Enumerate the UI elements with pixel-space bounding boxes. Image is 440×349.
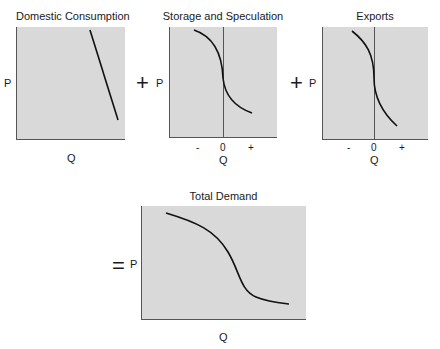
y-axis-label: P bbox=[4, 77, 11, 89]
tick-negative: - bbox=[347, 142, 350, 153]
y-axis-label: P bbox=[309, 77, 316, 89]
y-axis-label: P bbox=[130, 258, 137, 270]
x-axis-label: Q bbox=[219, 331, 228, 343]
panel-total-demand bbox=[141, 206, 306, 320]
panel-title: Total Demand bbox=[141, 190, 306, 202]
panel-domestic-consumption bbox=[16, 27, 125, 140]
tick-negative: - bbox=[196, 142, 199, 153]
x-axis-label: Q bbox=[67, 152, 76, 164]
panel-storage-speculation bbox=[169, 27, 277, 138]
tick-positive: + bbox=[399, 142, 405, 153]
x-axis-label: Q bbox=[370, 154, 379, 166]
panel-exports bbox=[322, 27, 428, 140]
y-axis-label: P bbox=[156, 77, 163, 89]
x-axis-label: Q bbox=[219, 154, 228, 166]
tick-zero: 0 bbox=[220, 142, 226, 153]
panel-title: Storage and Speculation bbox=[162, 10, 284, 22]
plus-operator: + bbox=[136, 72, 149, 94]
plus-operator: + bbox=[290, 72, 303, 94]
equals-operator: = bbox=[112, 255, 125, 277]
panel-background bbox=[141, 206, 306, 319]
panel-title: Exports bbox=[322, 10, 428, 22]
tick-zero: 0 bbox=[371, 142, 377, 153]
tick-positive: + bbox=[248, 142, 254, 153]
panel-title: Domestic Consumption bbox=[16, 10, 125, 22]
panel-background bbox=[16, 27, 125, 139]
diagram-canvas bbox=[0, 0, 440, 349]
